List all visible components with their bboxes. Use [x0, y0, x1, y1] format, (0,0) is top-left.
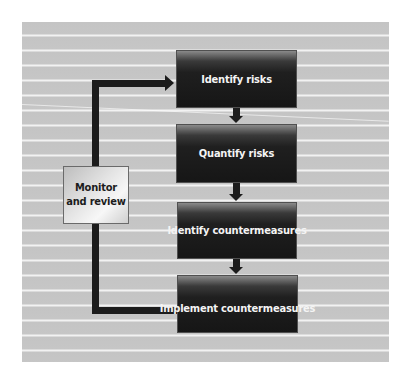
step-label: Implement countermeasures	[160, 302, 316, 315]
arrow-down-icon	[229, 267, 243, 274]
monitor-and-review-box: Monitor and review	[63, 166, 129, 224]
step-identify-countermeasures: Identify countermeasures	[177, 202, 297, 259]
step-quantify-risks: Quantify risks	[176, 124, 297, 183]
arrow-right-icon	[165, 75, 174, 91]
step-label: Identify countermeasures	[167, 224, 306, 237]
step-identify-risks: Identify risks	[176, 50, 297, 108]
step-label: Identify risks	[201, 73, 272, 86]
arrow-down-icon	[229, 194, 243, 201]
arrow-down-icon	[229, 116, 243, 123]
monitor-label-line1: Monitor	[75, 181, 117, 195]
step-implement-countermeasures: Implement countermeasures	[177, 275, 298, 333]
monitor-label-line2: and review	[66, 195, 126, 209]
connector-2-3	[233, 183, 240, 194]
step-label: Quantify risks	[199, 147, 274, 160]
feedback-top-line	[92, 80, 166, 87]
